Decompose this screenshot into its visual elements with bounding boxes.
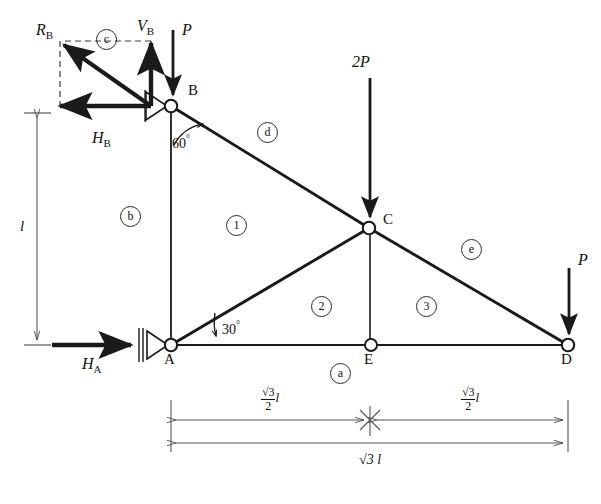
angle-arc-30-at-A: [214, 313, 216, 336]
reaction-VB-base: V: [137, 17, 147, 34]
frac-den-left: 2: [261, 400, 276, 413]
reaction-forces: [52, 41, 151, 345]
reaction-label-VB: VB: [137, 18, 154, 37]
reaction-HB-base: H: [92, 129, 104, 146]
node-label-B: B: [188, 83, 198, 98]
reaction-VB-sub: B: [147, 25, 154, 37]
fraction-sqrt3-over-2-left: √3 2: [261, 386, 276, 412]
dim-label-span-right: √3 2 l: [440, 386, 500, 412]
frac-num-left: √3: [261, 386, 276, 400]
angle-30-unit: °: [236, 319, 240, 330]
reaction-label-RB: RB: [36, 22, 53, 41]
load-label-P-at-D: P: [578, 252, 588, 268]
reaction-label-HB: HB: [92, 130, 111, 149]
joint-D: [562, 339, 574, 351]
member-label-b: b: [120, 206, 141, 227]
reaction-label-HA: HA: [82, 356, 102, 375]
angle-60-unit: °: [186, 133, 190, 144]
load-label-2P-at-C: 2P: [352, 54, 370, 70]
node-label-D: D: [561, 352, 572, 367]
fraction-sqrt3-over-2-right: √3 2: [461, 386, 476, 412]
member-label-d: d: [257, 122, 278, 143]
joint-B: [165, 100, 177, 112]
member-label-e: e: [461, 239, 482, 260]
panel-label-1: 1: [226, 215, 247, 236]
angle-label-30: 30°: [222, 320, 240, 337]
panel-label-3: 3: [416, 296, 437, 317]
applied-loads: [173, 30, 569, 334]
dim-center-tick: [360, 406, 380, 436]
joint-C: [363, 222, 375, 234]
dim-label-span-left: √3 2 l: [240, 386, 300, 412]
dim-label-height-l: l: [20, 218, 24, 235]
member-label-a: a: [330, 363, 351, 384]
dim-suffix-left: l: [275, 390, 279, 405]
dim-label-span-total: √3 l: [340, 452, 400, 468]
load-label-P-at-B: P: [182, 22, 192, 38]
node-label-C: C: [383, 212, 393, 227]
reaction-arrow-RB-resultant: [64, 45, 151, 106]
member-diagonal-AC: [171, 228, 369, 345]
figure-canvas: B A C E D P 2P P HA HB VB RB 60° 30° c b…: [0, 0, 601, 504]
reaction-HA-base: H: [82, 355, 94, 372]
angle-60-value: 60: [172, 136, 186, 151]
frac-den-right: 2: [461, 400, 476, 413]
node-label-A: A: [164, 352, 175, 367]
reaction-RB-base: R: [36, 21, 46, 38]
reaction-HB-sub: B: [104, 137, 111, 149]
truss-diagram-svg: [0, 0, 601, 504]
member-label-c: c: [96, 29, 117, 50]
node-label-E: E: [364, 352, 373, 367]
angle-label-60: 60°: [172, 134, 190, 151]
frac-num-right: √3: [461, 386, 476, 400]
panel-label-2: 2: [311, 296, 332, 317]
dim-suffix-right: l: [475, 390, 479, 405]
joint-A: [165, 339, 177, 351]
joint-E: [365, 339, 377, 351]
reaction-RB-sub: B: [46, 29, 53, 41]
angle-30-value: 30: [222, 322, 236, 337]
reaction-HA-sub: A: [94, 363, 102, 375]
angle-arcs: [174, 124, 216, 336]
